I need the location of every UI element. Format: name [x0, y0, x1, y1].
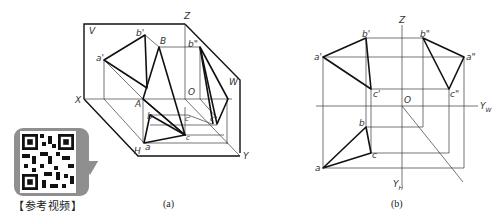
label-V-plane: V [89, 27, 95, 36]
label-a-double-prime: a" [466, 53, 476, 62]
label-b-double-prime: b" [188, 40, 198, 49]
label-Yw-sub: W [486, 106, 492, 113]
label-X-axis: X [75, 96, 81, 105]
label-c-double-prime: c" [450, 90, 459, 99]
label-c-double-prime: c" [210, 116, 217, 123]
label-point-B: B [160, 37, 166, 46]
label-a-prime: a' [96, 54, 104, 63]
label-b-prime: b' [362, 30, 370, 39]
figure-a-caption: (a) [163, 198, 174, 209]
label-c: c [372, 151, 377, 160]
label-b-double-prime: b" [420, 30, 430, 39]
label-b: b [359, 119, 365, 128]
label-Yh-axis: YH [393, 180, 403, 191]
label-b: b [147, 112, 153, 121]
label-Z-axis: Z [399, 16, 405, 25]
label-Y-axis: Y [243, 152, 249, 161]
qr-reference-video-label[interactable]: 【参考视频】 [13, 197, 82, 213]
label-a: a [145, 143, 151, 152]
label-H-plane: H [134, 147, 141, 156]
label-origin-O: O [404, 96, 411, 105]
label-b-prime: b' [136, 29, 144, 38]
figure-b-three-view: Z O YW YH a' b' c' a" b" c" a b c (b) [260, 0, 504, 222]
label-Yw-axis: YW [480, 102, 491, 113]
label-point-A: A [135, 100, 141, 109]
label-Z-axis: Z [184, 12, 190, 21]
qr-pattern [20, 131, 76, 193]
label-c-prime: c' [373, 90, 380, 99]
label-origin-O: O [188, 88, 195, 97]
label-W-plane: W [229, 78, 238, 87]
figure-b-caption: (b) [391, 198, 403, 209]
three-view-drawing [260, 0, 504, 222]
label-Yh-sub: H [399, 184, 404, 191]
label-c-prime: c' [185, 116, 191, 123]
qr-code-icon[interactable] [20, 131, 76, 193]
label-c: c [186, 135, 190, 142]
label-a-prime: a' [314, 53, 322, 62]
label-a: a [315, 164, 321, 173]
